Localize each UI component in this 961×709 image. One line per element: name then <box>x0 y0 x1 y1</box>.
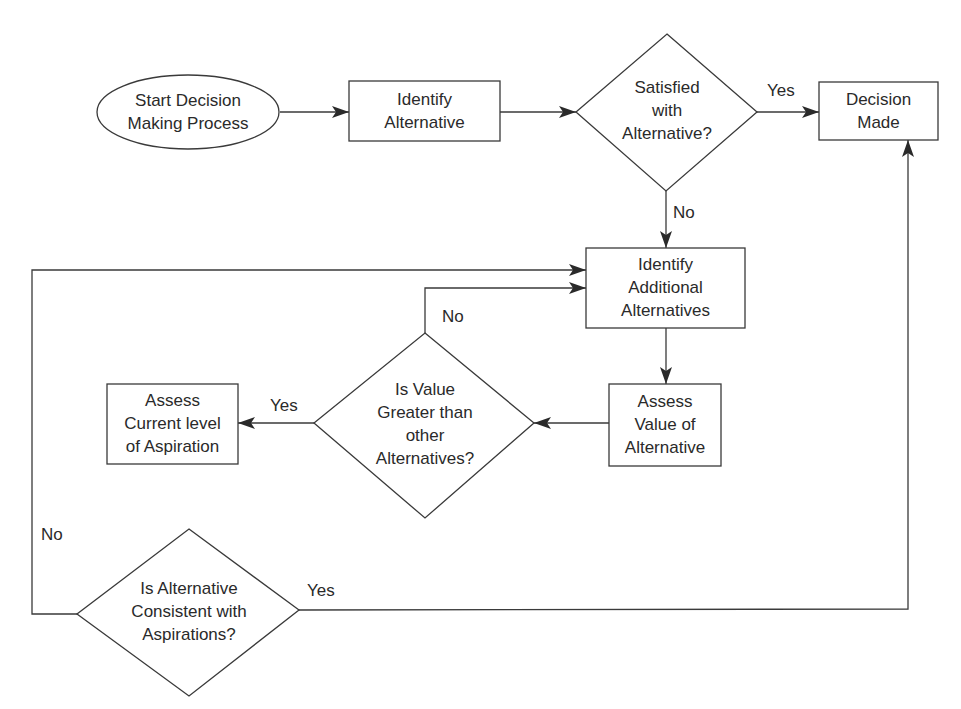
satisfied-no-label: No <box>673 203 695 223</box>
consistent-no-label: No <box>41 525 63 545</box>
value-greater-yes-label: Yes <box>270 396 298 416</box>
consistent-yes-label: Yes <box>307 581 335 601</box>
value-greater-question-label: Is Value Greater than other Alternatives… <box>335 378 515 470</box>
satisfied-yes-label: Yes <box>767 81 795 101</box>
consistent-question-label: Is Alternative Consistent with Aspiratio… <box>104 577 274 646</box>
identify-alternative-label: Identify Alternative <box>349 88 500 134</box>
start-node-label: Start Decision Making Process <box>97 89 279 135</box>
identify-additional-label: Identify Additional Alternatives <box>586 253 745 322</box>
decision-made-label: Decision Made <box>819 88 938 134</box>
value-greater-no-label: No <box>442 307 464 327</box>
assess-value-label: Assess Value of Alternative <box>609 390 721 459</box>
assess-aspiration-label: Assess Current level of Aspiration <box>107 389 238 458</box>
connectors <box>32 112 908 614</box>
satisfied-question-label: Satisfied with Alternative? <box>586 76 748 145</box>
